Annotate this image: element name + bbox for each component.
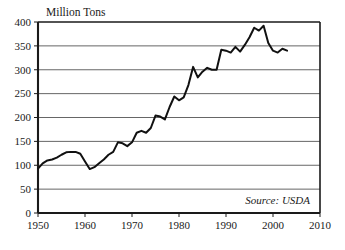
y-tick-label-250: 250 (15, 87, 32, 99)
x-tick-label-1970: 1970 (121, 219, 144, 231)
x-tick-label-2010: 2010 (309, 219, 332, 231)
x-tick-label-1990: 1990 (215, 219, 238, 231)
x-tick-label-1950: 1950 (27, 219, 50, 231)
x-tick-label-2000: 2000 (262, 219, 285, 231)
x-axis: 1950196019701980199020002010 (27, 213, 332, 231)
y-tick-label-0: 0 (26, 207, 32, 219)
y-tick-label-350: 350 (15, 40, 32, 52)
y-tick-label-200: 200 (15, 111, 32, 123)
y-axis: 050100150200250300350400 (15, 16, 39, 219)
source-annotation: Source: USDA (245, 194, 310, 206)
y-axis-title: Million Tons (46, 6, 106, 18)
y-tick-label-150: 150 (15, 135, 32, 147)
x-tick-label-1980: 1980 (168, 219, 191, 231)
x-tick-label-1960: 1960 (74, 219, 97, 231)
chart-figure: 0501001502002503003504001950196019701980… (0, 0, 345, 250)
y-tick-label-400: 400 (15, 16, 32, 28)
line-chart: 0501001502002503003504001950196019701980… (0, 0, 345, 250)
y-tick-label-50: 50 (20, 183, 32, 195)
y-tick-label-300: 300 (15, 64, 32, 76)
y-tick-label-100: 100 (15, 159, 32, 171)
